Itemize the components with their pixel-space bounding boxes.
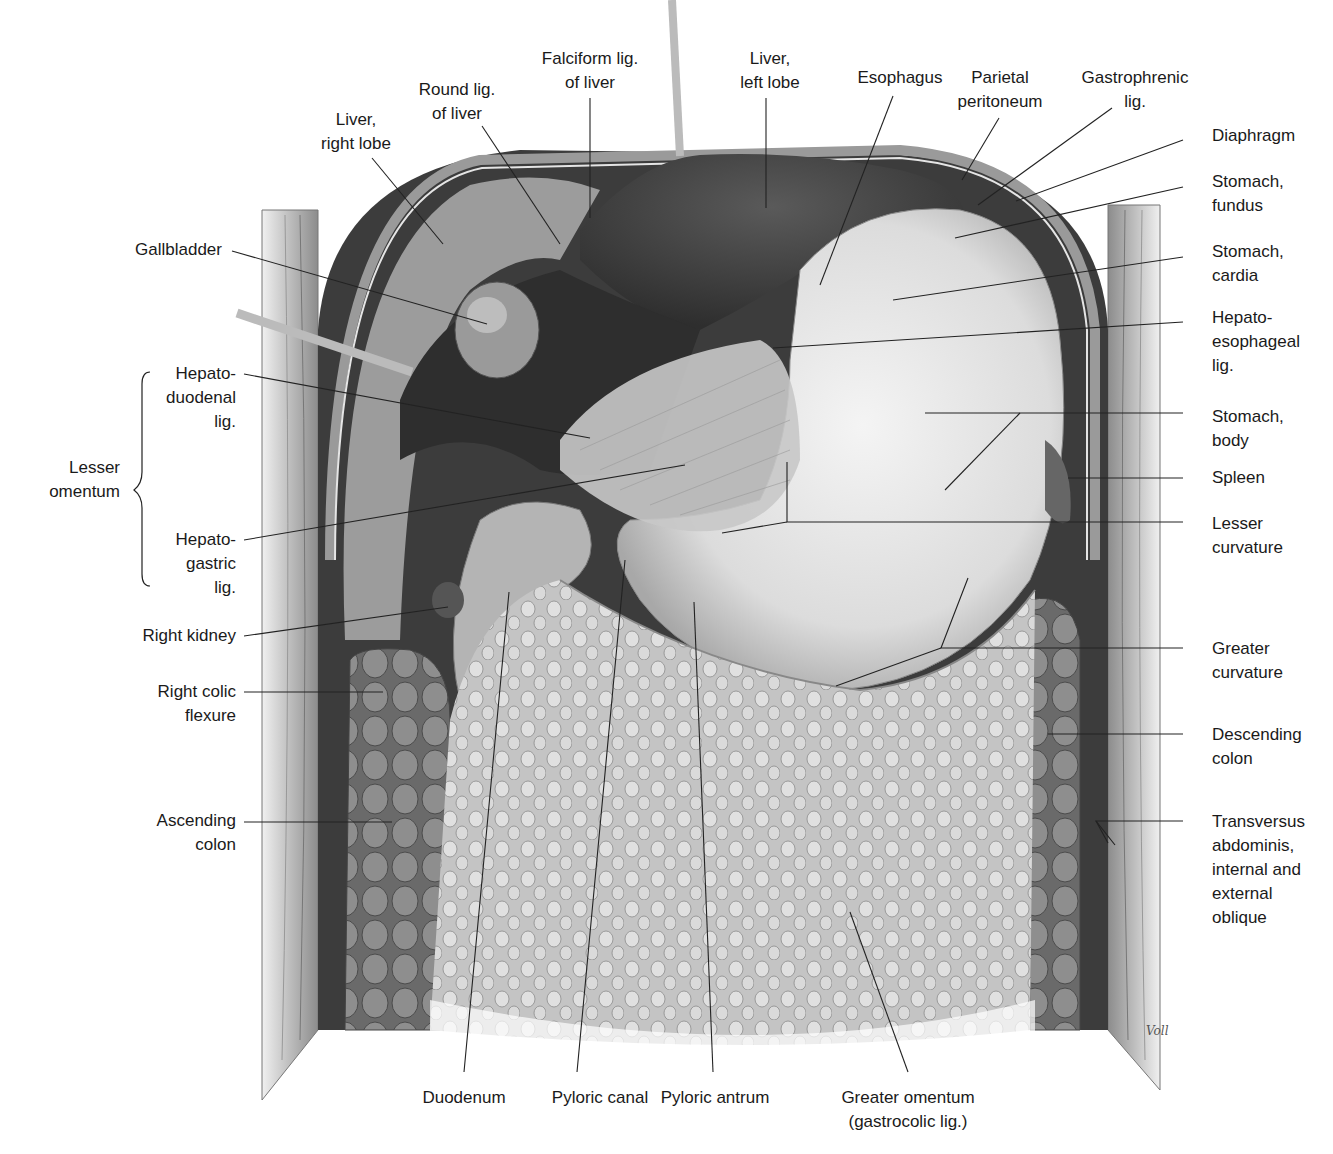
label-lesser-omentum: Lesser omentum	[10, 456, 120, 504]
label-parietal-peritoneum: Parietal peritoneum	[945, 66, 1055, 114]
abdominal-wall-left	[262, 210, 318, 1100]
label-liver-right-lobe: Liver, right lobe	[296, 108, 416, 156]
label-round-lig-of-liver: Round lig. of liver	[402, 78, 512, 126]
label-gastrophrenic-lig: Gastrophrenic lig.	[1065, 66, 1205, 114]
label-greater-omentum: Greater omentum (gastrocolic lig.)	[818, 1086, 998, 1134]
label-ascending-colon: Ascending colon	[60, 809, 236, 857]
label-diaphragm: Diaphragm	[1212, 124, 1332, 148]
label-stomach-fundus: Stomach, fundus	[1212, 170, 1332, 218]
label-greater-curvature: Greater curvature	[1212, 637, 1332, 685]
label-stomach-cardia: Stomach, cardia	[1212, 240, 1332, 288]
label-hepatogastric-lig: Hepato- gastric lig.	[120, 528, 236, 600]
label-abdominal-wall-muscles: Transversus abdominis, internal and exte…	[1212, 810, 1332, 930]
descending-colon-shape	[1030, 598, 1080, 1030]
label-falciform-lig-of-liver: Falciform lig. of liver	[520, 47, 660, 95]
artist-signature: Voll	[1146, 1024, 1168, 1038]
label-lesser-curvature: Lesser curvature	[1212, 512, 1332, 560]
label-gallbladder: Gallbladder	[40, 238, 222, 262]
anatomy-figure: Liver, right lobe Round lig. of liver Fa…	[0, 0, 1333, 1154]
label-esophagus: Esophagus	[845, 66, 955, 90]
label-right-colic-flexure: Right colic flexure	[60, 680, 236, 728]
label-right-kidney: Right kidney	[60, 624, 236, 648]
label-liver-left-lobe: Liver, left lobe	[715, 47, 825, 95]
label-duodenum: Duodenum	[404, 1086, 524, 1110]
label-spleen: Spleen	[1212, 466, 1332, 490]
label-pyloric-antrum: Pyloric antrum	[640, 1086, 790, 1110]
label-descending-colon: Descending colon	[1212, 723, 1332, 771]
label-hepatoduodenal-lig: Hepato- duodenal lig.	[120, 362, 236, 434]
retractor-top	[672, 0, 680, 156]
label-stomach-body: Stomach, body	[1212, 405, 1332, 453]
label-hepatoesophageal-lig: Hepato- esophageal lig.	[1212, 306, 1332, 378]
